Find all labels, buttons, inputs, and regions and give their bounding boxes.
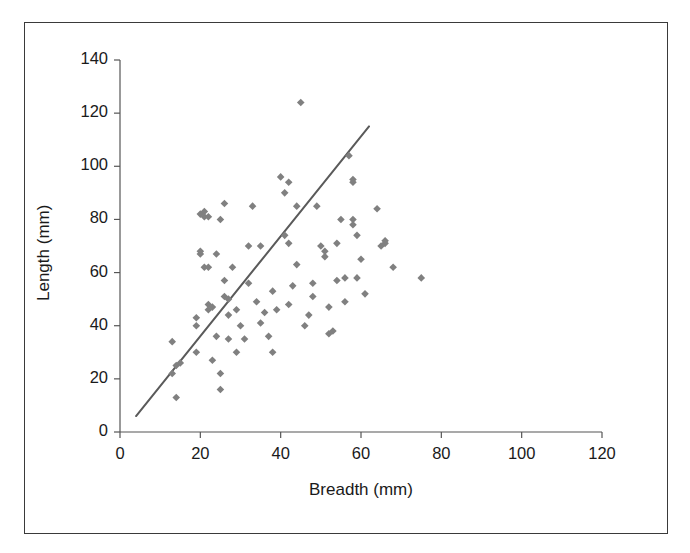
data-point [221,277,229,285]
data-point [172,394,180,402]
data-points [168,99,425,402]
data-point [269,287,277,295]
data-point [337,216,345,224]
x-tick-label: 0 [90,444,150,463]
data-point [305,311,313,319]
data-point [285,301,293,309]
data-point [353,274,361,282]
data-point [217,370,225,378]
data-point [213,333,221,341]
x-tick-label: 40 [251,444,311,463]
data-point [301,322,309,330]
data-point [168,370,176,378]
data-point [261,309,269,317]
y-tick-label: 140 [48,49,108,68]
data-point [325,303,333,311]
x-tick-label: 20 [170,444,230,463]
data-point [217,216,225,224]
data-point [225,335,233,343]
data-point [233,348,241,356]
axis-lines [120,60,602,432]
data-point [281,189,289,197]
data-point [168,338,176,346]
data-point [353,232,361,240]
data-point [245,242,253,250]
data-point [241,335,249,343]
data-point [313,202,321,210]
data-point [273,306,281,314]
data-point [229,263,237,271]
data-point [389,263,397,271]
data-point [213,250,221,258]
data-point [277,173,285,181]
data-point [333,240,341,248]
data-point [237,322,245,330]
tick-marks [114,60,602,438]
data-point [193,314,201,322]
data-point [349,216,357,224]
data-point [373,205,381,213]
data-point [193,322,201,330]
data-point [309,279,317,287]
data-point [341,298,349,306]
y-tick-label: 60 [48,262,108,281]
y-tick-label: 120 [48,102,108,121]
data-point [289,282,297,290]
data-point [209,356,217,364]
data-point [265,333,273,341]
data-point [257,242,265,250]
data-point [257,319,265,327]
data-point [217,386,225,394]
data-point [317,242,325,250]
data-point [205,213,213,221]
data-point [361,290,369,298]
data-point [249,202,257,210]
data-point [193,348,201,356]
y-tick-label: 20 [48,368,108,387]
data-point [417,274,425,282]
data-point [333,277,341,285]
data-point [225,311,233,319]
data-point [253,298,261,306]
y-tick-label: 0 [48,421,108,440]
data-point [269,348,277,356]
data-point [357,255,365,263]
x-tick-label: 80 [411,444,471,463]
data-point [285,240,293,248]
data-point [321,253,329,261]
x-axis-title: Breadth (mm) [301,480,421,500]
y-axis-title: Length (mm) [34,205,54,301]
x-tick-label: 60 [331,444,391,463]
data-point [309,293,317,301]
data-point [341,274,349,282]
data-point [345,152,353,160]
y-tick-label: 100 [48,155,108,174]
y-tick-label: 40 [48,315,108,334]
x-tick-label: 100 [492,444,552,463]
data-point [221,200,229,208]
data-point [233,306,241,314]
data-point [293,202,301,210]
data-point [297,99,305,107]
data-point [285,178,293,186]
data-point [205,263,213,271]
data-point [281,232,289,240]
data-point [293,261,301,269]
y-tick-label: 80 [48,208,108,227]
x-tick-label: 120 [572,444,632,463]
